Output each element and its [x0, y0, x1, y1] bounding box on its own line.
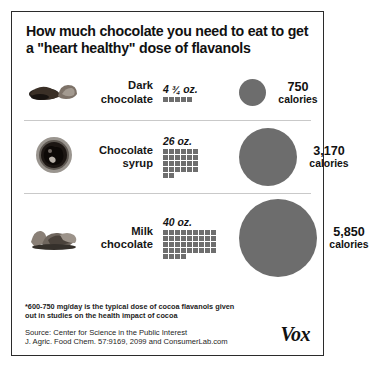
milk-chocolate-photo	[23, 216, 85, 260]
calorie-circle	[239, 79, 266, 106]
unit-square	[169, 242, 174, 247]
unit-square	[193, 161, 198, 166]
unit-square	[175, 97, 180, 102]
footnote: *600-750 mg/day is the typical dose of c…	[25, 303, 240, 320]
unit-square	[169, 173, 174, 178]
unit-square	[181, 149, 186, 154]
unit-square	[169, 248, 174, 253]
amount-text: 26 oz.	[163, 136, 239, 147]
unit-square	[181, 248, 186, 253]
unit-square	[163, 254, 168, 259]
unit-square	[181, 155, 186, 160]
unit-square	[205, 236, 210, 241]
unit-square	[163, 242, 168, 247]
unit-square	[199, 230, 204, 235]
chocolate-syrup-photo	[23, 135, 85, 179]
calories-value: 3,170	[297, 144, 361, 158]
unit-square	[211, 248, 216, 253]
unit-square	[175, 167, 180, 172]
unit-square	[163, 248, 168, 253]
unit-square	[205, 242, 210, 247]
calories-value: 5,850	[317, 225, 373, 239]
food-label-line-2: chocolate	[85, 238, 153, 252]
food-label-line-1: Dark	[85, 79, 153, 93]
unit-square	[193, 155, 198, 160]
unit-square	[181, 167, 186, 172]
milk-chocolate-icon	[28, 222, 80, 250]
unit-square	[193, 242, 198, 247]
unit-square	[175, 242, 180, 247]
unit-square	[205, 248, 210, 253]
amount-text: 4 ¾ oz.	[163, 84, 239, 95]
unit-square	[175, 155, 180, 160]
calorie-circle-cell	[239, 79, 266, 106]
source-line-1: Source: Center for Science in the Public…	[25, 328, 270, 337]
unit-square	[163, 173, 168, 178]
unit-square	[199, 248, 204, 253]
amount-cell: 26 oz.	[161, 136, 239, 178]
unit-square	[205, 230, 210, 235]
unit-square	[163, 161, 168, 166]
unit-square	[181, 161, 186, 166]
unit-square	[181, 236, 186, 241]
unit-square	[193, 236, 198, 241]
food-label: Dark chocolate	[85, 79, 161, 106]
source-credit: Source: Center for Science in the Public…	[25, 328, 270, 346]
unit-square	[175, 248, 180, 253]
unit-square	[211, 242, 216, 247]
unit-square	[187, 242, 192, 247]
calorie-circle-cell	[239, 199, 317, 277]
unit-square	[187, 236, 192, 241]
unit-square	[193, 167, 198, 172]
unit-square	[169, 236, 174, 241]
unit-square	[175, 236, 180, 241]
food-label-line-1: Milk	[85, 225, 153, 239]
table-row: Dark chocolate 4 ¾ oz. 750 calories	[12, 65, 323, 120]
calories-value: 750	[266, 80, 330, 94]
calories-unit: calories	[266, 94, 330, 106]
unit-square	[169, 230, 174, 235]
unit-square	[175, 230, 180, 235]
food-label-line-2: syrup	[85, 157, 153, 171]
source-line-2: J. Agric. Food Chem. 57:9169, 2099 and C…	[25, 337, 270, 346]
amount-unit-squares	[163, 149, 201, 178]
calories-cell: 5,850 calories	[317, 225, 373, 251]
unit-square	[211, 236, 216, 241]
amount-unit-squares	[163, 230, 216, 259]
unit-square	[175, 161, 180, 166]
unit-square	[187, 97, 192, 102]
unit-square	[181, 97, 186, 102]
food-label: Milk chocolate	[85, 225, 161, 252]
unit-square	[199, 236, 204, 241]
unit-square	[163, 236, 168, 241]
unit-square	[187, 161, 192, 166]
food-label-line-2: chocolate	[85, 93, 153, 107]
title-block: How much chocolate you need to eat to ge…	[12, 12, 323, 56]
vox-logo: Vox	[280, 323, 310, 346]
unit-square	[187, 155, 192, 160]
unit-square	[175, 149, 180, 154]
footer: *600-750 mg/day is the typical dose of c…	[25, 303, 310, 346]
unit-square	[163, 167, 168, 172]
dark-chocolate-icon	[28, 80, 80, 102]
infographic-frame: How much chocolate you need to eat to ge…	[11, 11, 324, 356]
unit-square	[181, 254, 186, 259]
unit-square	[211, 230, 216, 235]
unit-square	[199, 242, 204, 247]
unit-square	[163, 149, 168, 154]
calories-unit: calories	[317, 239, 373, 251]
unit-square	[187, 167, 192, 172]
unit-square	[169, 161, 174, 166]
calorie-circle-cell	[239, 128, 297, 186]
unit-square	[193, 149, 198, 154]
unit-square	[163, 230, 168, 235]
unit-square	[169, 254, 174, 259]
unit-square	[193, 230, 198, 235]
calorie-circle	[239, 199, 317, 277]
unit-square	[169, 149, 174, 154]
table-row: Chocolate syrup 26 oz. 3,170 calories	[12, 121, 323, 193]
amount-cell: 40 oz.	[161, 217, 239, 259]
amount-unit-squares	[163, 97, 198, 102]
unit-square	[187, 149, 192, 154]
unit-square	[187, 230, 192, 235]
